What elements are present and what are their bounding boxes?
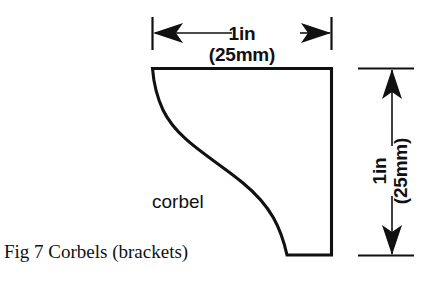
figure-caption: Fig 7 Corbels (brackets) xyxy=(4,241,188,263)
corbel-figure: 1in (25mm) corbel 1in (25mm) Fig 7 Corbe… xyxy=(0,0,432,293)
width-value-primary: 1in xyxy=(229,23,256,44)
horizontal-dimension-group: 1in (25mm) xyxy=(153,17,332,65)
corbel-part-label: corbel xyxy=(152,191,204,212)
width-value-secondary: (25mm) xyxy=(209,44,275,65)
height-value-secondary: (25mm) xyxy=(390,138,411,204)
corbel-profile-outline xyxy=(153,69,332,256)
vertical-dimension-group: 1in (25mm) xyxy=(358,69,414,256)
height-value-primary: 1in xyxy=(369,158,390,185)
